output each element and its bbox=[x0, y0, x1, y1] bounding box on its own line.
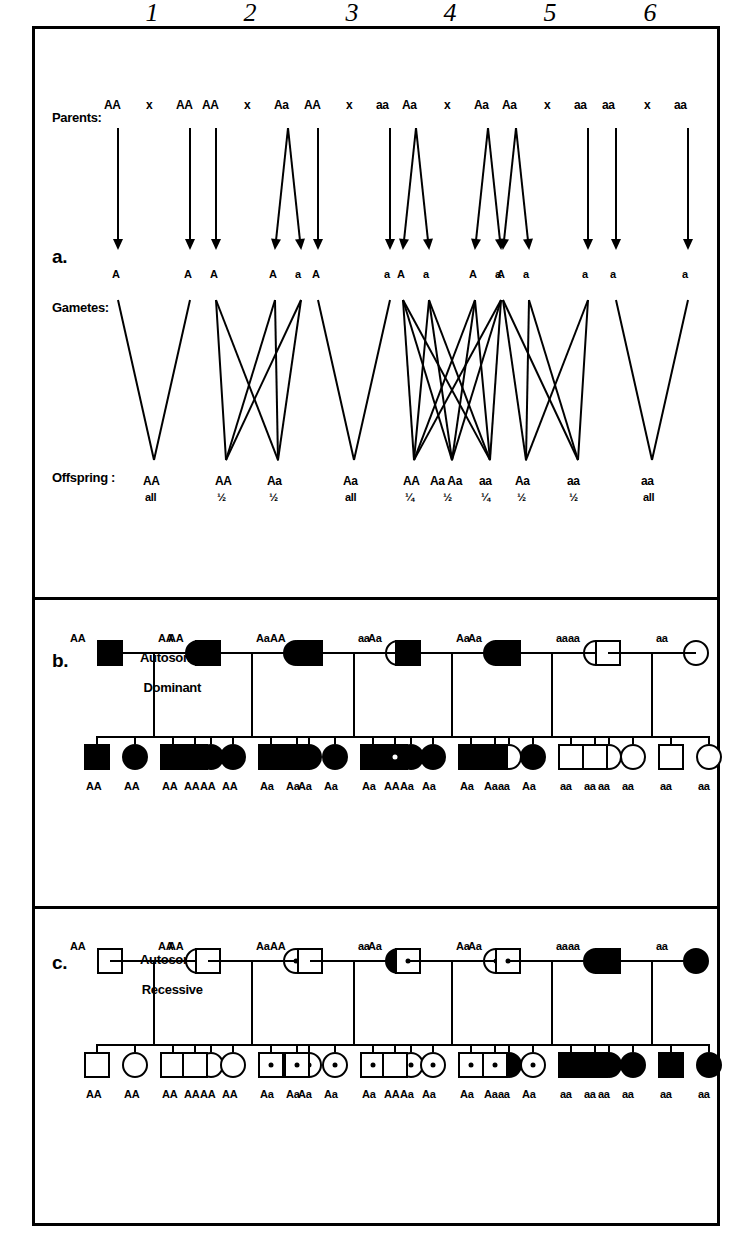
cross-6-offspring-genotype: aa bbox=[641, 474, 654, 488]
panel-c-family-4-descent-line bbox=[451, 961, 453, 1044]
cross-3-offspring-ratio: all bbox=[345, 491, 356, 503]
gamete-arrowhead bbox=[398, 239, 409, 251]
panel-c-family-3-child-stub bbox=[296, 1044, 298, 1052]
cross-3-parent-right: aa bbox=[376, 98, 389, 112]
panel-c-family-6-child-stub bbox=[670, 1044, 672, 1052]
cross-5-offspring-genotype: Aa bbox=[515, 474, 530, 488]
cross-2-parent-left: AA bbox=[202, 98, 219, 112]
panel-c-family-1-child-1-genotype: AA bbox=[86, 1088, 101, 1100]
panel-c-family-2-child-2-genotype: AA bbox=[222, 1088, 237, 1100]
panel-c-family-2-child-1-genotype: AA bbox=[184, 1088, 199, 1100]
cross-2-offspring-ratio: ½ bbox=[269, 491, 278, 503]
cross-3-cross-symbol: x bbox=[346, 98, 352, 112]
panel-c-family-1-child-3-genotype: AA bbox=[162, 1088, 177, 1100]
column-number-6: 6 bbox=[637, 0, 663, 28]
cross-6-gamete-a: a bbox=[610, 268, 616, 280]
panel-b-family-1-child-1 bbox=[84, 744, 110, 770]
panel-c-family-1-child-2 bbox=[122, 1052, 148, 1078]
panel-b-family-5-child-4-genotype: aa bbox=[598, 780, 610, 792]
cross-3-gamete-a: a bbox=[384, 268, 390, 280]
panel-b-family-2-child-stub bbox=[270, 736, 272, 744]
cross-6-gamete-a: a bbox=[682, 268, 688, 280]
panel-b-family-2-child-stub bbox=[194, 736, 196, 744]
cross-6-parent-right: aa bbox=[674, 98, 687, 112]
panel-b-family-6-child-4-genotype: aa bbox=[698, 780, 710, 792]
panel-b-family-6-child-2-genotype: aa bbox=[622, 780, 634, 792]
panel-c-family-4-child-stub bbox=[394, 1044, 396, 1052]
cross-6-cross-symbol: x bbox=[644, 98, 650, 112]
panel-b-family-3-descent-line bbox=[353, 653, 355, 736]
panel-b-family-4-child-3-genotype: Aa bbox=[460, 780, 473, 792]
panel-c-family-5-child-1-genotype: Aa bbox=[484, 1088, 497, 1100]
panel-c-family-1-child-1 bbox=[84, 1052, 110, 1078]
cross-4-offspring-genotype: aa bbox=[479, 474, 492, 488]
cross-2-cross-symbol: x bbox=[244, 98, 250, 112]
panel-c-family-2-sibship-line bbox=[195, 1044, 309, 1046]
row-label-parents: Parents: bbox=[52, 110, 102, 125]
gamete-arrowhead bbox=[470, 239, 481, 251]
panel-c-family-3-child-2 bbox=[322, 1052, 348, 1078]
panel-b-family-1-child-2 bbox=[122, 744, 148, 770]
gamete-arrow bbox=[117, 128, 119, 240]
panel-c-family-6-child-2 bbox=[620, 1052, 646, 1078]
panel-letter-c: c. bbox=[52, 952, 67, 974]
panel-c-family-6-child-4 bbox=[696, 1052, 722, 1078]
panel-c-family-2-father-genotype: AA bbox=[168, 940, 183, 952]
panel-b-family-1-child-stub bbox=[96, 736, 98, 744]
panel-c-family-4-child-stub bbox=[432, 1044, 434, 1052]
panel-c-family-2-mother-genotype: Aa bbox=[256, 940, 269, 952]
cross-6-parent-left: aa bbox=[602, 98, 615, 112]
panel-b-family-1-child-stub bbox=[172, 736, 174, 744]
panel-b-family-6-mother-genotype: aa bbox=[656, 632, 668, 644]
gamete-arrow bbox=[587, 128, 589, 240]
panel-b-family-4-child-stub bbox=[432, 736, 434, 744]
gamete-arrowhead bbox=[385, 239, 395, 250]
cross-5-gamete-a: a bbox=[523, 268, 529, 280]
panel-b-family-5-sibship-line bbox=[495, 736, 609, 738]
panel-c-family-1-child-stub bbox=[96, 1044, 98, 1052]
panel-c-family-6-father-genotype: aa bbox=[568, 940, 580, 952]
gamete-arrowhead bbox=[295, 239, 306, 251]
panel-b-family-1-father-genotype: AA bbox=[70, 632, 85, 644]
panel-c-family-3-descent-line bbox=[353, 961, 355, 1044]
cross-4-offspring-genotype: Aa Aa bbox=[430, 474, 462, 488]
gamete-arrow bbox=[215, 128, 217, 240]
panel-c-family-2-child-1 bbox=[182, 1052, 208, 1078]
panel-b-family-4-descent-line bbox=[451, 653, 453, 736]
panel-b-family-2-child-2 bbox=[220, 744, 246, 770]
panel-c-family-4-father-genotype: Aa bbox=[368, 940, 381, 952]
cross-4-offspring-ratio: ¼ bbox=[481, 491, 490, 503]
cross-3-gamete-A: A bbox=[312, 268, 320, 280]
panel-b-family-6-sibship-line bbox=[595, 736, 709, 738]
gamete-arrow bbox=[317, 128, 319, 240]
panel-b-family-2-descent-line bbox=[251, 653, 253, 736]
panel-b-family-6-father-genotype: aa bbox=[568, 632, 580, 644]
panel-c-family-4-child-1-genotype: AA bbox=[384, 1088, 399, 1100]
panel-c-family-6-mother-genotype: aa bbox=[656, 940, 668, 952]
panel-c-family-5-child-stub bbox=[494, 1044, 496, 1052]
cross-1-gamete-A: A bbox=[112, 268, 120, 280]
panel-b-family-6-child-stub bbox=[594, 736, 596, 744]
cross-2-parent-right: Aa bbox=[274, 98, 289, 112]
panel-b-family-3-child-stub bbox=[372, 736, 374, 744]
panel-c-family-1-father-genotype: AA bbox=[70, 940, 85, 952]
panel-c-family-2-child-2 bbox=[220, 1052, 246, 1078]
panel-c-family-4-child-2-genotype: Aa bbox=[422, 1088, 435, 1100]
panel-b-family-1-child-stub bbox=[134, 736, 136, 744]
gamete-arrowhead bbox=[113, 239, 123, 250]
panel-c-family-6-child-2-genotype: aa bbox=[622, 1088, 634, 1100]
panel-c-family-1-child-4-genotype: AA bbox=[200, 1088, 215, 1100]
cross-2-offspring-genotype: Aa bbox=[267, 474, 282, 488]
panel-c-family-3-child-1 bbox=[284, 1052, 310, 1078]
panel-b-family-2-child-1 bbox=[182, 744, 208, 770]
gamete-arrowhead bbox=[583, 239, 593, 250]
panel-b-family-5-child-stub bbox=[532, 736, 534, 744]
carrier-dot bbox=[371, 1063, 376, 1068]
cross-2-gamete-a: a bbox=[295, 268, 301, 280]
panel-c-family-4-child-3-genotype: Aa bbox=[460, 1088, 473, 1100]
gamete-arrow bbox=[189, 128, 191, 240]
panel-b-family-3-child-2 bbox=[322, 744, 348, 770]
cross-4-offspring-ratio: ½ bbox=[443, 491, 452, 503]
panel-b-family-4-child-3 bbox=[458, 744, 484, 770]
carrier-dot bbox=[295, 1063, 300, 1068]
